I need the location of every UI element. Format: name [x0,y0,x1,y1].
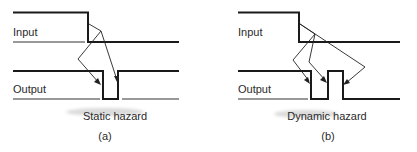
caption-title-b: Dynamic hazard [272,110,382,122]
delay-arrow-a1 [78,24,101,83]
arrowhead-b3 [343,79,350,85]
delay-arrow-b3 [300,24,365,83]
input-label-b: Input [238,26,262,38]
input-label-a: Input [13,26,37,38]
output-label-b: Output [238,83,271,95]
arrowhead-b2 [320,76,327,83]
output-label-a: Output [13,83,46,95]
caption-tag-b: (b) [308,130,348,142]
hazard-diagram [0,0,417,152]
caption-tag-a: (a) [85,130,125,142]
caption-title-a: Static hazard [60,110,170,122]
